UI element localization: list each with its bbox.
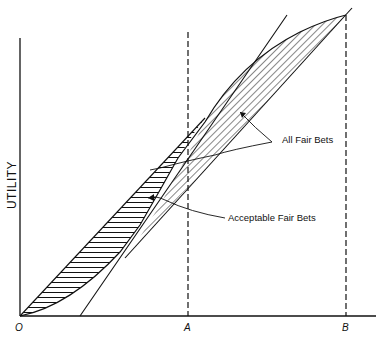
utility-diagram: UTILITY O A B All Fair Bets Acceptable F… xyxy=(0,0,387,341)
x-tick-b: B xyxy=(342,322,349,333)
origin-chord-line xyxy=(20,118,205,316)
y-axis-label: UTILITY xyxy=(5,159,19,211)
x-tick-a: A xyxy=(184,322,191,333)
x-tick-o: O xyxy=(15,322,23,333)
all-fair-bets-pointer-1 xyxy=(240,112,272,142)
all-fair-bets-label: All Fair Bets xyxy=(282,134,333,145)
acceptable-fair-bets-label: Acceptable Fair Bets xyxy=(228,212,316,223)
diagram-graphic xyxy=(0,0,387,341)
